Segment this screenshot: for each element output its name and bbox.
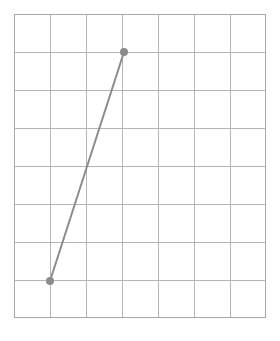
grid-horizontal-lines bbox=[14, 15, 266, 318]
segment-endpoint-upper bbox=[120, 48, 128, 56]
grid-diagram bbox=[0, 0, 280, 341]
segment-endpoint-lower bbox=[46, 277, 54, 285]
figure-root: Line segment plotted on a square grid bbox=[0, 0, 280, 341]
